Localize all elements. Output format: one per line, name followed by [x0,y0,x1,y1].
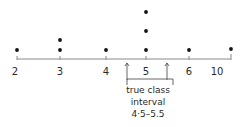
annotation-line-1: true class [126,85,170,95]
data-dots [15,10,233,52]
dot-5-3 [144,10,148,14]
dot-3-1 [58,48,62,52]
tick-label-4: 4 [103,66,109,77]
dot-5-1 [144,48,148,52]
annotation-line-2: interval [131,97,165,107]
dot-4-1 [104,48,108,52]
tick-label-10: 10 [211,66,224,77]
tick-label-6: 6 [186,66,192,77]
dot-3-2 [58,38,62,42]
annotation-line-3: 4·5–5.5 [131,109,164,119]
dot-5-2 [144,29,148,33]
tick-label-5: 5 [143,66,149,77]
dot-2-1 [15,48,19,52]
dot-6-1 [187,48,191,52]
tick-label-3: 3 [57,66,63,77]
tick-label-2: 2 [12,66,18,77]
dot-10-1 [229,47,233,51]
dot-plot-diagram: 2 3 4 5 6 10 true class interval 4·5–5.5 [0,0,240,127]
